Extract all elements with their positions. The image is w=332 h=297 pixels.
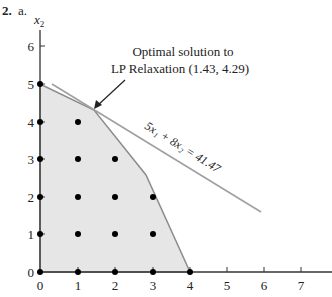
annotation-line-2: LP Relaxation (1.43, 4.29) bbox=[111, 61, 249, 76]
svg-text:3: 3 bbox=[28, 152, 35, 167]
svg-text:6: 6 bbox=[261, 278, 268, 293]
svg-text:2: 2 bbox=[112, 278, 119, 293]
svg-text:1: 1 bbox=[28, 227, 35, 242]
svg-text:7: 7 bbox=[298, 278, 305, 293]
svg-text:1: 1 bbox=[75, 278, 82, 293]
problem-number: 2. bbox=[2, 3, 12, 18]
svg-text:0: 0 bbox=[37, 278, 44, 293]
lp-diagram: 0 1 2 3 4 5 6 7 0 1 2 3 4 5 6 2. a. x2 O… bbox=[0, 0, 332, 297]
svg-text:5: 5 bbox=[224, 278, 231, 293]
svg-text:4: 4 bbox=[187, 278, 194, 293]
y-tick-labels: 0 1 2 3 4 5 6 bbox=[28, 39, 35, 280]
svg-text:6: 6 bbox=[28, 39, 35, 54]
problem-part: a. bbox=[18, 3, 27, 18]
annotation-arrow bbox=[94, 80, 125, 109]
svg-text:2: 2 bbox=[28, 190, 35, 205]
svg-text:3: 3 bbox=[150, 278, 157, 293]
feasible-region bbox=[40, 84, 190, 272]
svg-text:5: 5 bbox=[28, 77, 35, 92]
annotation-line-1: Optimal solution to bbox=[132, 44, 233, 59]
x-tick-labels: 0 1 2 3 4 5 6 7 bbox=[37, 278, 305, 293]
y-axis-label: x2 bbox=[33, 12, 44, 29]
svg-text:0: 0 bbox=[28, 265, 35, 280]
svg-text:4: 4 bbox=[28, 115, 35, 130]
